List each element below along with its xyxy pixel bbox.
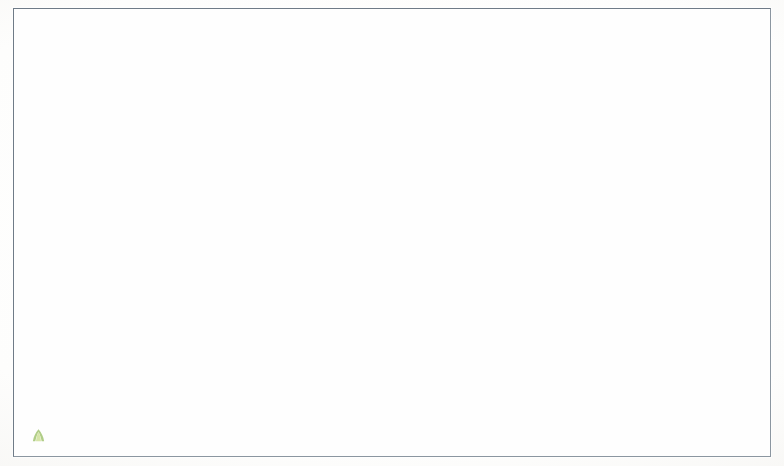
vosviewer-leaf-icon (31, 428, 46, 443)
label-layer (14, 9, 770, 456)
screenshot-viewport (0, 0, 784, 466)
network-map-canvas[interactable] (13, 8, 771, 457)
vosviewer-logo (31, 428, 51, 443)
